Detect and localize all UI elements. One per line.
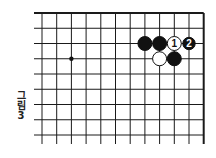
go-board-diagram: 12 [0, 0, 216, 158]
caption-char: 3 [14, 111, 28, 121]
move-number: 1 [172, 38, 178, 49]
figure-caption: 그 림 3 [14, 91, 28, 121]
move-number: 2 [186, 38, 192, 49]
white-stone [153, 52, 167, 66]
star-point [69, 57, 73, 61]
black-stone [153, 37, 167, 51]
black-stone-2: 2 [183, 37, 195, 49]
black-stone [167, 52, 181, 66]
white-stone-1: 1 [167, 37, 181, 51]
black-stone [138, 37, 152, 51]
